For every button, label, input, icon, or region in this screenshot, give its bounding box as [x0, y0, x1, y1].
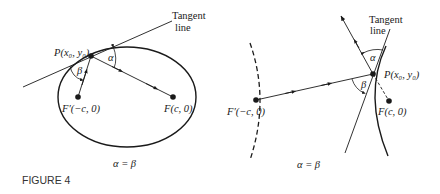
- focal-ray-left-arrow-icon: [82, 71, 87, 85]
- focus-f: [170, 94, 176, 100]
- incoming-ray-arrow-icon-2: [321, 84, 330, 86]
- point-p-label: P(x₀, y₀): [53, 47, 90, 59]
- equation-label-hyperbola: α = β: [297, 159, 321, 170]
- focus-f-hyperbola: [386, 98, 392, 104]
- reflected-ray-arrow-icon: [355, 41, 359, 48]
- incoming-ray: [256, 74, 373, 100]
- tangent-line: [23, 21, 172, 87]
- focal-ray-right-arrow-icon-1: [112, 67, 121, 72]
- point-p-hyperbola: [370, 71, 376, 77]
- tangent-label-line2-hyperbola: line: [370, 25, 386, 36]
- hyperbola-right-branch: [375, 46, 388, 156]
- angle-alpha-label: α: [108, 52, 114, 63]
- figure-caption: FIGURE 4: [22, 174, 71, 186]
- hyperbola-panel: Tangent line α β P(x₀, y₀) F′(−c, 0) F(c…: [226, 14, 420, 170]
- ellipse-panel: Tangent line P(x₀, y₀) α β F′(−c, 0) F(c…: [23, 10, 206, 169]
- focus-f-prime-label-hyperbola: F′(−c, 0): [226, 106, 265, 118]
- focus-f-prime-label: F′(−c, 0): [61, 103, 100, 115]
- equation-label: α = β: [113, 158, 137, 169]
- tangent-line-hyperbola: [345, 29, 390, 153]
- tangent-label-line1-hyperbola: Tangent: [369, 14, 403, 25]
- focus-f-label-hyperbola: F(c, 0): [377, 106, 407, 118]
- tangent-label-line2: line: [175, 22, 191, 33]
- tangent-label-line1: Tangent: [172, 10, 206, 21]
- point-p-label-hyperbola: P(x₀, y₀): [383, 69, 420, 81]
- focal-ray-right: [91, 56, 173, 97]
- focus-f-prime-hyperbola: [253, 97, 259, 103]
- angle-alpha-label-hyperbola: α: [370, 52, 376, 63]
- focal-ray-right-arrow-icon-2: [146, 84, 156, 89]
- angle-beta-label: β: [76, 65, 83, 76]
- focus-f-label: F(c, 0): [163, 103, 193, 115]
- angle-beta-label-hyperbola: β: [360, 79, 367, 90]
- incoming-ray-arrow-icon-1: [285, 92, 294, 94]
- focus-f-prime: [75, 94, 81, 100]
- figure-canvas: Tangent line P(x₀, y₀) α β F′(−c, 0) F(c…: [0, 0, 440, 194]
